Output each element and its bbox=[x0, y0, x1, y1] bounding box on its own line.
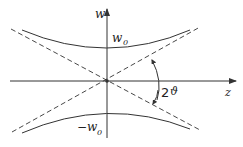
waist-lower-subscript: 0 bbox=[97, 128, 102, 137]
beam-envelope-lower bbox=[22, 113, 190, 133]
z-axis-label: z bbox=[224, 86, 231, 99]
angle-label-symbol: ϑ bbox=[170, 85, 178, 98]
beam-diagram: w z w 0 −w 0 2 ϑ bbox=[0, 0, 243, 147]
angle-label-prefix: 2 bbox=[161, 85, 169, 100]
waist-upper-label: w bbox=[112, 31, 123, 45]
beam-envelope-upper bbox=[22, 30, 190, 48]
divergence-angle-arc bbox=[152, 60, 159, 100]
asymptote-2 bbox=[12, 27, 200, 132]
origin-point bbox=[105, 79, 109, 83]
waist-upper-subscript: 0 bbox=[123, 38, 128, 47]
w-axis-label: w bbox=[95, 7, 106, 21]
divergence-angle-arc-lower-head bbox=[153, 90, 158, 104]
waist-lower-label: −w bbox=[77, 120, 98, 134]
